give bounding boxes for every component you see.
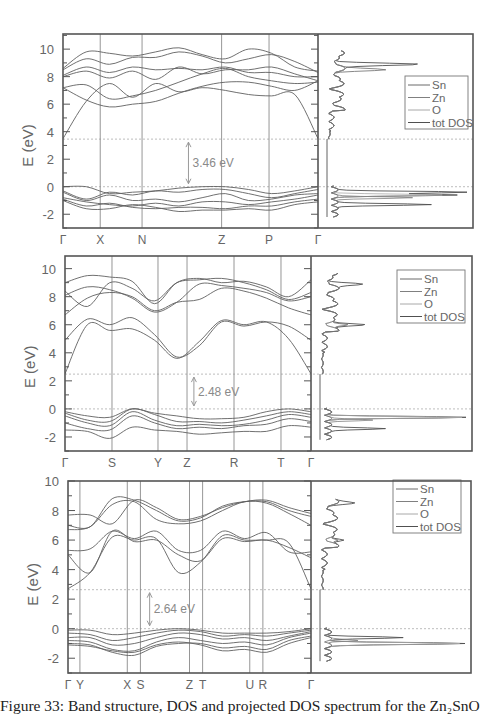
kpoint-label: Γ xyxy=(60,233,67,247)
y-tick-label: 10 xyxy=(40,42,54,57)
kpoint-label: U xyxy=(245,678,254,692)
kpoint-label: Z xyxy=(186,678,193,692)
dos-legend: SnZnOtot DOS xyxy=(397,270,465,323)
y-tick-label: 8 xyxy=(52,504,59,519)
y-axis-label: E (eV) xyxy=(21,346,38,389)
band-gap-label: 2.64 eV xyxy=(154,602,195,616)
kpoint-label: X xyxy=(123,678,131,692)
legend-label: tot DOS xyxy=(424,311,465,323)
y-tick-label: 8 xyxy=(49,290,56,305)
y-tick-label: 2 xyxy=(52,592,59,607)
y-axis-label: E (eV) xyxy=(24,563,41,606)
legend-label: O xyxy=(432,104,441,116)
y-tick-label: 6 xyxy=(52,533,59,548)
kpoint-label: Γ xyxy=(308,678,315,692)
panel-1: ΓXNZPΓ-20246810E (eV)3.46 eVSnZnOtot DOS xyxy=(19,34,473,247)
legend-label: Sn xyxy=(424,273,438,285)
y-tick-label: 10 xyxy=(45,474,59,489)
kpoint-label: T xyxy=(199,678,207,692)
kpoint-label: S xyxy=(108,456,116,470)
kpoint-label: Z xyxy=(183,456,190,470)
y-tick-label: 4 xyxy=(49,346,56,361)
y-tick-label: 0 xyxy=(47,180,54,195)
legend-label: tot DOS xyxy=(432,117,473,129)
y-tick-label: -2 xyxy=(44,430,56,445)
kpoint-label: T xyxy=(277,456,285,470)
kpoint-label: Γ xyxy=(65,678,72,692)
legend-label: O xyxy=(420,508,429,520)
dos-legend: SnZnOtot DOS xyxy=(405,76,473,129)
legend-label: Sn xyxy=(420,483,434,495)
y-tick-label: 2 xyxy=(49,374,56,389)
figure-caption: Figure 33: Band structure, DOS and proje… xyxy=(0,697,501,715)
y-tick-label: 2 xyxy=(47,152,54,167)
panel-3: ΓYXSZTURΓ-20246810E (eV)2.64 eVSnZnOtot … xyxy=(24,474,471,692)
y-axis-label: E (eV) xyxy=(19,124,36,167)
y-tick-label: 4 xyxy=(52,563,59,578)
kpoint-label: Γ xyxy=(308,456,315,470)
kpoint-label: N xyxy=(138,233,147,247)
kpoint-label: P xyxy=(265,233,273,247)
kpoint-label: S xyxy=(136,678,144,692)
kpoint-label: Γ xyxy=(62,456,69,470)
legend-label: Zn xyxy=(424,286,437,298)
band-gap-label: 3.46 eV xyxy=(192,156,233,170)
band-structure-figure: ΓXNZPΓ-20246810E (eV)3.46 eVSnZnOtot DOS… xyxy=(0,0,501,717)
y-tick-label: -2 xyxy=(47,651,59,666)
panel-2: ΓSYZRTΓ-20246810E (eV)2.48 eVSnZnOtot DO… xyxy=(21,256,472,470)
kpoint-label: Γ xyxy=(315,233,322,247)
kpoint-label: X xyxy=(96,233,104,247)
dos-legend: SnZnOtot DOS xyxy=(393,480,461,533)
kpoint-label: R xyxy=(259,678,268,692)
band-gap-label: 2.48 eV xyxy=(198,385,239,399)
y-tick-label: -2 xyxy=(42,207,54,222)
kpoint-label: Y xyxy=(154,456,162,470)
band-lines xyxy=(65,275,311,438)
y-tick-label: 4 xyxy=(47,125,54,140)
y-tick-label: 10 xyxy=(42,262,56,277)
kpoint-label: Y xyxy=(76,678,84,692)
y-tick-label: 0 xyxy=(52,622,59,637)
y-tick-label: 0 xyxy=(49,402,56,417)
kpoint-label: Z xyxy=(218,233,225,247)
y-tick-label: 8 xyxy=(47,70,54,85)
legend-label: Sn xyxy=(432,79,446,91)
legend-label: O xyxy=(424,298,433,310)
legend-label: Zn xyxy=(420,496,433,508)
y-tick-label: 6 xyxy=(47,97,54,112)
kpoint-label: R xyxy=(230,456,239,470)
legend-label: tot DOS xyxy=(420,521,461,533)
y-tick-label: 6 xyxy=(49,318,56,333)
legend-label: Zn xyxy=(432,92,445,104)
